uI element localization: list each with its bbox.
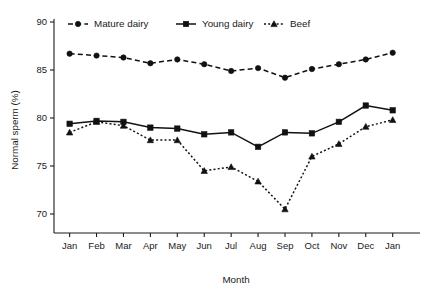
x-axis-tick-label: Nov [330,240,347,251]
data-point-marker [255,178,261,184]
x-axis-tick-label: Sep [277,240,294,251]
data-point-marker [228,164,234,170]
x-axis-tick-label: Jun [197,240,212,251]
x-axis-tick-label: Aug [250,240,267,251]
data-point-marker [67,121,72,126]
x-axis-tick-label: Oct [305,240,320,251]
chart-series [66,50,395,212]
data-point-marker [282,206,288,212]
x-axis-tick-label: Feb [88,240,104,251]
data-point-marker [174,137,180,143]
legend-label: Young dairy [202,18,253,29]
data-point-marker [202,132,207,137]
data-point-marker [309,131,314,136]
legend-label: Mature dairy [94,18,149,29]
data-point-marker [175,57,180,62]
legend-label: Beef [290,18,310,29]
y-axis-tick-label: 90 [36,16,47,27]
data-point-marker [336,119,341,124]
chart-legend: Mature dairyYoung dairyBeef [68,18,310,29]
x-axis-title: Month [222,274,249,285]
data-point-marker [202,62,207,67]
x-axis-tick-label: May [168,240,186,251]
x-axis-tick-label: Mar [115,240,131,251]
data-point-marker [336,141,342,147]
data-point-marker [389,117,395,123]
legend-item-beef[interactable]: Beef [264,18,310,29]
data-point-marker [67,51,72,56]
legend-marker-icon [183,21,188,26]
x-axis-tick-label: Apr [143,240,158,251]
data-point-marker [282,75,287,80]
data-point-marker [175,126,180,131]
data-point-marker [255,144,260,149]
y-axis-tick-label: 80 [36,112,47,123]
data-point-marker [94,53,99,58]
series-young-dairy [67,103,395,150]
data-point-marker [228,68,233,73]
data-point-marker [363,103,368,108]
x-axis-tick-label: Jan [385,240,400,251]
series-mature-dairy [67,50,395,80]
data-point-marker [66,129,72,135]
line-chart: 9085807570JanFebMarAprMayJunJulAugSepOct… [0,0,424,295]
legend-marker-icon [75,21,80,26]
chart-container: 9085807570JanFebMarAprMayJunJulAugSepOct… [0,0,424,295]
legend-marker-icon [271,21,277,27]
x-axis-tick-label: Dec [357,240,374,251]
x-axis-tick-label: Jan [62,240,77,251]
data-point-marker [148,125,153,130]
data-point-marker [121,55,126,60]
data-point-marker [228,130,233,135]
data-point-marker [148,61,153,66]
data-point-marker [336,62,341,67]
data-point-marker [390,108,395,113]
x-axis-tick-label: Jul [225,240,237,251]
legend-item-mature-dairy[interactable]: Mature dairy [68,18,149,29]
y-axis-title: Normal sperm (%) [9,90,20,169]
y-axis-tick-label: 75 [36,160,47,171]
data-point-marker [255,65,260,70]
data-point-marker [309,66,314,71]
y-axis-tick-label: 85 [36,64,47,75]
data-point-marker [363,57,368,62]
data-point-marker [282,130,287,135]
data-point-marker [390,50,395,55]
legend-item-young-dairy[interactable]: Young dairy [176,18,253,29]
y-axis-tick-label: 70 [36,208,47,219]
